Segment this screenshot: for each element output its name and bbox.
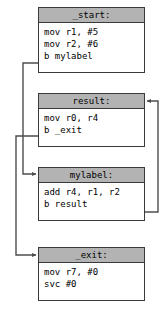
- code-line: add r4, r1, r2: [44, 186, 144, 198]
- node-exit[interactable]: _exit: mov r7, #0 svc #0: [38, 247, 145, 301]
- node-start[interactable]: _start: mov r1, #5 mov r2, #6 b mylabel: [38, 7, 145, 73]
- node-mylabel-body: add r4, r1, r2 b result: [39, 183, 144, 213]
- code-line: b _exit: [44, 124, 144, 136]
- node-start-body: mov r1, #5 mov r2, #6 b mylabel: [39, 23, 144, 65]
- code-line: b mylabel: [44, 50, 144, 62]
- code-line: mov r2, #6: [44, 38, 144, 50]
- assembly-control-flow-diagram: _start: mov r1, #5 mov r2, #6 b mylabel …: [0, 0, 167, 315]
- code-line: b result: [44, 198, 144, 210]
- code-line: mov r7, #0: [44, 266, 144, 278]
- edge-mylabel-to-result: [145, 101, 158, 212]
- node-result-body: mov r0, r4 b _exit: [39, 109, 144, 139]
- node-mylabel-label: mylabel:: [39, 168, 144, 183]
- node-result[interactable]: result: mov r0, r4 b _exit: [38, 93, 145, 147]
- code-line: mov r1, #5: [44, 26, 144, 38]
- node-mylabel[interactable]: mylabel: add r4, r1, r2 b result: [38, 167, 145, 221]
- code-line: svc #0: [44, 278, 144, 290]
- code-line: mov r0, r4: [44, 112, 144, 124]
- edge-start-to-mylabel: [23, 63, 38, 174]
- node-exit-label: _exit:: [39, 248, 144, 263]
- node-result-label: result:: [39, 94, 144, 109]
- node-exit-body: mov r7, #0 svc #0: [39, 263, 144, 293]
- node-start-label: _start:: [39, 8, 144, 23]
- edge-result-to-exit: [16, 136, 38, 255]
